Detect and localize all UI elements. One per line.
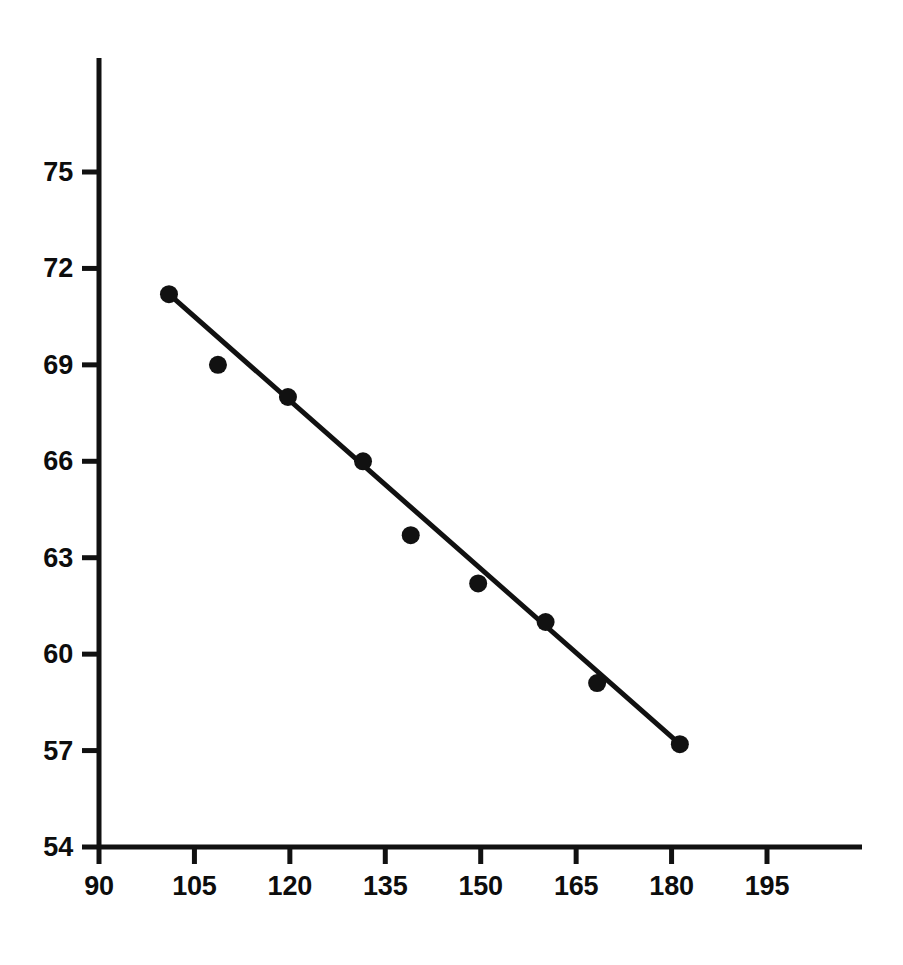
data-point-marker	[209, 356, 227, 374]
x-tick-label-150: 150	[458, 873, 502, 900]
data-point-marker	[279, 388, 297, 406]
y-tick-label-69: 69	[43, 351, 73, 378]
data-point-marker	[588, 674, 606, 692]
y-tick-label-66: 66	[43, 448, 73, 475]
plot-area	[0, 0, 903, 965]
y-tick-label-75: 75	[43, 159, 73, 186]
data-point-marker	[469, 574, 487, 592]
x-tick-label-105: 105	[172, 873, 216, 900]
x-tick-label-135: 135	[363, 873, 407, 900]
x-tick-label-180: 180	[649, 873, 693, 900]
y-tick-label-63: 63	[43, 544, 73, 571]
axis-group	[99, 58, 862, 847]
scatter-chart: 5457606366697275 90105120135150165180195	[0, 0, 903, 965]
data-point-marker	[671, 735, 689, 753]
y-tick-label-54: 54	[43, 834, 73, 861]
x-tick-label-90: 90	[84, 873, 114, 900]
x-tick-label-165: 165	[554, 873, 598, 900]
x-tick-label-120: 120	[268, 873, 312, 900]
data-point-marker	[354, 452, 372, 470]
data-point-marker	[402, 526, 420, 544]
y-tick-label-57: 57	[43, 737, 73, 764]
x-tick-label-195: 195	[745, 873, 789, 900]
y-tick-label-60: 60	[43, 641, 73, 668]
data-point-marker	[537, 613, 555, 631]
y-tick-label-72: 72	[43, 255, 73, 282]
data-point-marker	[160, 285, 178, 303]
